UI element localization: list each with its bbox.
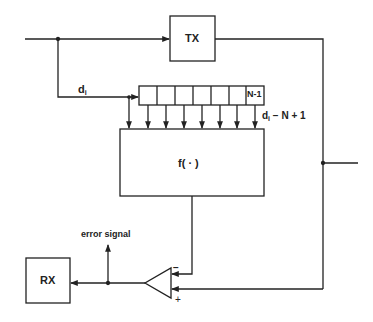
shift-register: [139, 86, 264, 105]
tx-label: TX: [185, 32, 199, 44]
input-tap-label: di: [78, 83, 87, 96]
tx-output-line: [215, 39, 323, 289]
minus-sign: −: [173, 262, 179, 273]
input-tap-sub: i: [85, 89, 87, 96]
rx-label: RX: [40, 274, 55, 286]
function-label: f( · ): [178, 157, 199, 169]
channel-junction: [322, 162, 325, 165]
comparator: [145, 268, 171, 298]
last-tap-suffix: − N + 1: [270, 110, 306, 121]
last-cell-label: N-1: [247, 89, 262, 99]
register-input-line: [58, 39, 138, 97]
input-tap-base: d: [78, 83, 85, 95]
error-signal-label: error signal: [81, 229, 131, 239]
last-tap-label: di − N + 1: [262, 110, 306, 122]
plus-sign: +: [175, 294, 181, 305]
